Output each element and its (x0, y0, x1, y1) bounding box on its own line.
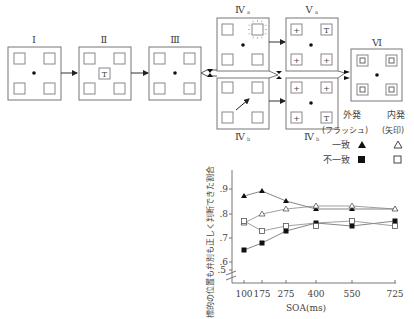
x-tick-label: 550 (343, 289, 360, 299)
panel-label-IVa: Ⅳ (235, 4, 246, 15)
series-endo-incongruent (244, 221, 395, 231)
figure: Ⅰ Ⅱ T Ⅲ Ⅳ a (0, 0, 414, 319)
open-square-markers (242, 219, 398, 234)
filled-square-icon (358, 156, 365, 163)
x-tick-label: 725 (386, 289, 403, 299)
legend-incongruent: 不一致 (323, 154, 350, 165)
panel-label-I: Ⅰ (32, 34, 36, 45)
panel-label-III: Ⅲ (170, 34, 180, 45)
svg-text:+: + (293, 56, 300, 65)
axis-break-icon (226, 271, 236, 280)
series-exo-incongruent (244, 221, 395, 250)
panel-IVb: Ⅳ b (217, 78, 269, 142)
svg-text:a: a (247, 9, 250, 15)
panel-label-Vb: Ⅳ (304, 131, 315, 142)
panel-label-VI: Ⅵ (371, 37, 382, 48)
svg-text:b: b (247, 136, 250, 142)
x-tick-label: 175 (253, 289, 270, 299)
svg-text:+: + (293, 26, 300, 35)
legend-endogenous-sub: (矢印) (382, 125, 404, 135)
panel-Va: Ⅴ a + T + + (286, 4, 338, 71)
svg-text:+: + (293, 84, 300, 93)
y-tick-label: .7 (219, 233, 228, 243)
panel-label-Va: Ⅴ (304, 4, 313, 15)
panel-I: Ⅰ (8, 34, 61, 100)
svg-text:T: T (324, 26, 330, 35)
line-chart: .9 .8 .7 .6 .5 100 175 275 400 550 725 S… (205, 166, 404, 318)
svg-text:T: T (324, 114, 330, 123)
fixation-dot-icon (309, 43, 313, 47)
svg-text:b: b (316, 136, 319, 142)
fixation-dot-icon (32, 71, 36, 75)
svg-text:+: + (323, 56, 330, 65)
panel-II: Ⅱ T (79, 34, 131, 100)
y-tick-label: .9 (219, 184, 228, 194)
series-endo-congruent (244, 206, 395, 223)
x-tick-label: 275 (277, 289, 294, 299)
panel-VI: Ⅵ (351, 37, 402, 101)
fixation-dot-icon (241, 43, 245, 47)
x-tick-label: 100 (235, 289, 252, 299)
panel-label-IVb: Ⅳ (235, 131, 246, 142)
filled-triangle-icon (358, 141, 366, 148)
fixation-dot-icon (173, 71, 177, 75)
panel-label-II: Ⅱ (101, 34, 108, 45)
x-tick-label: 400 (307, 289, 324, 299)
legend-exogenous-sub: (フラッシュ) (322, 126, 368, 135)
y-axis-title: 標的の位置も弁別も正しく判断できた割合 (205, 166, 215, 318)
panel-III: Ⅲ (149, 34, 201, 100)
svg-text:+: + (323, 84, 330, 93)
open-triangle-icon (394, 141, 402, 148)
legend-exogenous: 外発 (343, 109, 361, 120)
svg-text:a: a (315, 9, 318, 15)
y-tick-label: .8 (219, 209, 228, 219)
legend-endogenous: 内発 (387, 109, 405, 120)
fixation-dot-icon (375, 73, 379, 77)
legend-congruent: 一致 (332, 139, 350, 150)
open-square-icon (394, 156, 401, 163)
panel-IVa: Ⅳ a (217, 4, 269, 71)
x-axis-title: SOA(ms) (286, 303, 326, 313)
svg-text:+: + (293, 114, 300, 123)
y-tick-label: .5 (217, 265, 226, 275)
fixation-dot-icon (309, 101, 313, 105)
target-T-glyph: T (102, 70, 108, 79)
